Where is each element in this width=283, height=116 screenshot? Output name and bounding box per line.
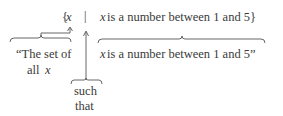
condition-brace — [98, 36, 265, 43]
set-of-label-line2-prefix: all — [27, 63, 40, 77]
condition-label-variable: x — [100, 47, 106, 61]
set-of-connector — [41, 28, 70, 35]
condition-label-text: is a number between 1 and 5” — [107, 47, 256, 61]
such-label: such — [74, 84, 97, 98]
that-label: that — [75, 99, 94, 113]
set-of-brace — [10, 35, 71, 42]
set-of-label-line1: “The set of — [16, 47, 72, 61]
set-of-label-line2-var: x — [45, 63, 51, 77]
